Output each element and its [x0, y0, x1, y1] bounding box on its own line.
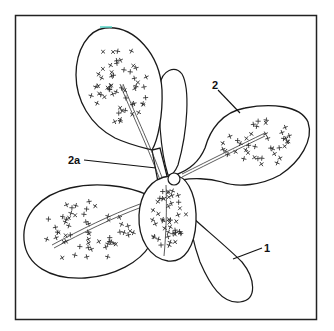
plant-rosette-illustration: 2 2a 1: [0, 0, 334, 331]
growing-point: [168, 173, 180, 185]
leaf-front: [139, 173, 196, 261]
cotyledon-lower: [190, 215, 253, 302]
leader-line-1: [233, 248, 262, 259]
leader-line-2: [218, 90, 240, 113]
label-1: 1: [264, 242, 270, 254]
label-2a: 2a: [68, 154, 81, 166]
leaf-top: [76, 27, 168, 182]
label-2: 2: [212, 79, 218, 91]
leaf-right: [175, 106, 309, 185]
leader-line-2a: [84, 160, 156, 168]
